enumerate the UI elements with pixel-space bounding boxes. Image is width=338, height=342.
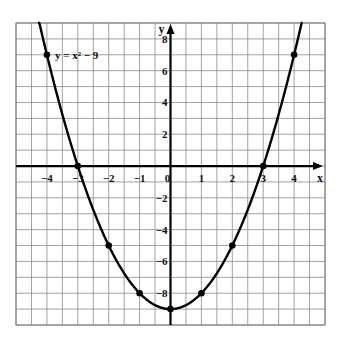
data-point (105, 242, 112, 249)
y-tick-label: 2 (162, 128, 168, 140)
data-point (167, 306, 174, 313)
y-tick-label: −2 (156, 192, 168, 204)
x-tick-label: 0 (165, 172, 171, 184)
parabola-chart: −4−3−2−1012348642−2−4−6−8 x y y = x² − 9 (0, 0, 338, 342)
data-point (136, 290, 143, 297)
data-point (44, 51, 51, 58)
y-tick-label: 6 (162, 65, 168, 77)
x-tick-label: −2 (103, 172, 115, 184)
data-point (291, 51, 298, 58)
x-tick-label: 2 (230, 172, 236, 184)
data-point (229, 242, 236, 249)
y-axis-label: y (159, 22, 165, 36)
x-tick-label: −4 (41, 172, 53, 184)
x-tick-label: 4 (291, 172, 297, 184)
y-tick-label: −6 (156, 255, 168, 267)
x-tick-label: −1 (134, 172, 146, 184)
data-point (198, 290, 205, 297)
data-point (260, 163, 267, 170)
x-axis-arrow-icon (313, 162, 323, 170)
equation-label: y = x² − 9 (55, 49, 99, 61)
y-tick-label: −4 (156, 224, 168, 236)
y-axis-arrow-icon (167, 24, 175, 34)
y-tick-label: 4 (162, 96, 168, 108)
data-point (75, 163, 82, 170)
x-axis-label: x (317, 171, 323, 185)
y-tick-label: −8 (156, 287, 168, 299)
x-tick-label: 1 (199, 172, 205, 184)
